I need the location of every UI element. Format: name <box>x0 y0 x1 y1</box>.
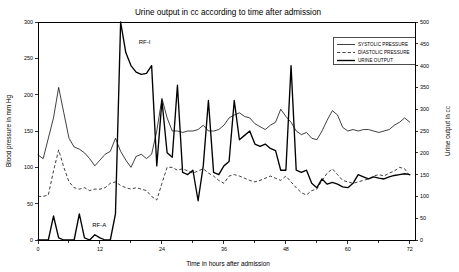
series-line-systolic-pressure <box>38 87 410 167</box>
y-tick-label-right: 200 <box>420 150 429 156</box>
y-tick-label-right: 300 <box>420 106 429 112</box>
x-axis-title: Time in hours after admission <box>186 260 270 267</box>
y-tick-label-right: 400 <box>420 63 429 69</box>
y-tick-label-right: 150 <box>420 172 429 178</box>
y-tick-label-right: 50 <box>420 215 426 221</box>
x-tick-label: 48 <box>283 246 289 252</box>
chart-container: Urine output in cc according to time aft… <box>0 0 459 272</box>
series-line-diastolic-pressure <box>38 150 410 200</box>
y-tick-label-left: 200 <box>24 92 33 98</box>
urine-output-chart: Urine output in cc according to time aft… <box>0 0 459 272</box>
chart-legend: SYSTOLIC PRESSUREDIASTOLIC PRESSUREURINE… <box>333 37 415 64</box>
chart-annotation: RF-I <box>139 39 151 45</box>
y-tick-label-left: 100 <box>24 164 33 170</box>
y-tick-label-right: 0 <box>420 237 423 243</box>
legend-label: DIASTOLIC PRESSURE <box>358 50 410 55</box>
x-tick-label: 72 <box>407 246 413 252</box>
annotations-layer: RF-IRF-A <box>92 39 150 228</box>
x-tick-label: 60 <box>345 246 351 252</box>
y-tick-label-right: 250 <box>420 128 429 134</box>
y-tick-label-right: 450 <box>420 41 429 47</box>
y-axis-left-ticks: 050100150200250300 <box>24 19 38 243</box>
legend-label: URINE OUTPUT <box>358 58 393 63</box>
legend-label: SYSTOLIC PRESSURE <box>358 42 408 47</box>
y-tick-label-right: 500 <box>420 19 429 25</box>
y-tick-label-left: 50 <box>27 201 33 207</box>
y-tick-label-left: 300 <box>24 19 33 25</box>
x-tick-label: 0 <box>37 246 40 252</box>
chart-annotation: RF-A <box>92 222 106 228</box>
y-axis-right-title: Urine output in cc <box>444 105 452 156</box>
y-tick-label-right: 100 <box>420 193 429 199</box>
y-axis-right-ticks: 050100150200250300350400450500 <box>415 19 429 243</box>
y-tick-label-left: 150 <box>24 128 33 134</box>
y-tick-label-right: 350 <box>420 84 429 90</box>
chart-title: Urine output in cc according to time aft… <box>135 8 322 17</box>
x-tick-label: 12 <box>97 246 103 252</box>
y-axis-left-title: Blood pressure in mm Hg <box>5 95 13 168</box>
x-axis-ticks: 0122436486072 <box>37 240 413 252</box>
y-tick-label-left: 250 <box>24 55 33 61</box>
x-tick-label: 24 <box>159 246 165 252</box>
x-tick-label: 36 <box>221 246 227 252</box>
y-tick-label-left: 0 <box>30 237 33 243</box>
